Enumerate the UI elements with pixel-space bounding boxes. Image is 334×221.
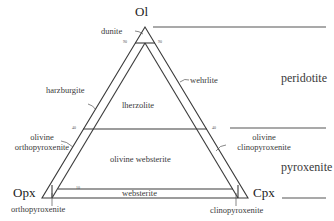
group-pyroxenite: pyroxenite: [281, 161, 332, 173]
vertex-opx-label: Opx: [13, 186, 35, 199]
outer-triangle: [42, 27, 248, 198]
field-harzburgite: harzburgite: [46, 86, 85, 95]
inner-left-line: [52, 43, 145, 198]
field-olivine-websterite: olivine websterite: [110, 155, 171, 164]
vertex-ol-label: Ol: [135, 5, 148, 18]
field-wehrlite: wehrlite: [190, 76, 218, 85]
ternary-diagram-graphics: [0, 0, 334, 221]
vertex-cpx-label: Cpx: [253, 186, 275, 199]
leader-wehrlite: [180, 79, 189, 82]
field-olivine-orthopyroxenite-line1: olivine: [7, 133, 77, 142]
tick-90-left: 90: [123, 40, 127, 44]
tick-40-right: 40: [212, 126, 216, 130]
tick-10-left: 10: [76, 186, 80, 190]
leader-harzburgite: [88, 104, 96, 110]
field-olivine-clinopyroxenite-line2: clinopyroxenite: [229, 143, 299, 152]
field-orthopyroxenite: orthopyroxenite: [11, 205, 65, 214]
field-olivine-clinopyroxenite-line1: olivine: [229, 133, 299, 142]
field-dunite: dunite: [101, 27, 122, 36]
tick-40-left: 40: [72, 126, 76, 130]
field-olivine-orthopyroxenite-line2: orthopyroxenite: [7, 143, 77, 152]
tick-90-right: 90: [158, 40, 162, 44]
inner-right-line: [145, 43, 238, 198]
field-websterite: websterite: [122, 189, 157, 198]
field-lherzolite: lherzolite: [122, 101, 154, 110]
group-peridotite: peridotite: [281, 72, 327, 84]
field-clinopyroxenite: clinopyroxenite: [210, 206, 263, 215]
